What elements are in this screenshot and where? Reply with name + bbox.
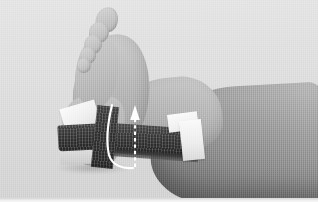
contact-shadow — [56, 164, 130, 174]
clinical-photograph — [0, 0, 318, 202]
print-base-strip — [0, 198, 318, 202]
white-anchor-shin-lower — [179, 119, 205, 161]
